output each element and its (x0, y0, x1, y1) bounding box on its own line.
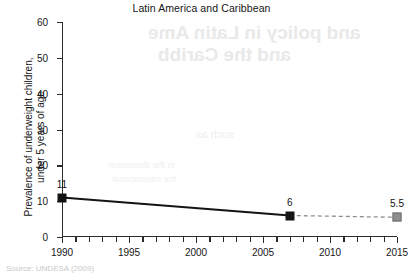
data-point-marker (393, 213, 402, 222)
x-axis-tick (75, 237, 76, 242)
x-axis-tick (317, 237, 318, 242)
x-axis-tick-major (196, 237, 197, 243)
x-axis-tick (370, 237, 371, 242)
x-axis-tick-major (62, 237, 63, 243)
x-axis-tick (209, 237, 210, 242)
x-axis-tick-major (129, 237, 130, 243)
x-axis-tick-label: 2000 (185, 247, 207, 258)
y-axis-label-line1: Prevalence of underweight children, (23, 58, 34, 217)
x-axis-tick (223, 237, 224, 242)
x-axis-tick-label: 2005 (252, 247, 274, 258)
x-axis-tick (357, 237, 358, 242)
y-axis-tick-label: 40 (37, 88, 48, 99)
y-axis-tick-label: 50 (37, 52, 48, 63)
x-axis-tick (250, 237, 251, 242)
x-axis-tick-label: 2015 (386, 247, 408, 258)
x-axis-tick-major (330, 237, 331, 243)
series-line-observed (62, 198, 290, 216)
y-axis-label: Prevalence of underweight children, unde… (23, 32, 47, 242)
data-point-marker (285, 211, 294, 220)
series-line-projected (290, 216, 397, 218)
x-axis-tick-label: 2010 (319, 247, 341, 258)
series-lines (62, 22, 397, 237)
x-axis-tick (183, 237, 184, 242)
y-axis-tick-label: 30 (37, 124, 48, 135)
data-point-label: 5.5 (390, 198, 404, 209)
x-axis-tick-label: 1990 (51, 247, 73, 258)
chart-title: Latin America and Caribbean (0, 2, 403, 14)
x-axis-tick-label: 1995 (118, 247, 140, 258)
x-axis-tick (290, 237, 291, 242)
x-axis-tick (89, 237, 90, 242)
y-axis-tick-label: 0 (42, 232, 48, 243)
x-axis-tick-major (397, 237, 398, 243)
x-axis-tick (142, 237, 143, 242)
source-note: Source: UNDESA (2009) (6, 264, 94, 273)
x-axis-tick (236, 237, 237, 242)
x-axis-tick (303, 237, 304, 242)
data-point-marker (58, 193, 67, 202)
x-axis-tick (102, 237, 103, 242)
x-axis-tick (276, 237, 277, 242)
data-point-label: 11 (57, 179, 67, 190)
x-axis-tick (343, 237, 344, 242)
x-axis-tick (384, 237, 385, 242)
x-axis-tick-major (263, 237, 264, 243)
y-axis-tick-label: 60 (37, 17, 48, 28)
x-axis-tick (169, 237, 170, 242)
y-axis-tick-label: 10 (37, 196, 48, 207)
x-axis-tick (156, 237, 157, 242)
x-axis-tick (116, 237, 117, 242)
data-point-label: 6 (287, 197, 293, 208)
y-axis-tick-label: 20 (37, 160, 48, 171)
plot-area: 0102030405060 199019952000200520102015 1… (62, 22, 397, 237)
